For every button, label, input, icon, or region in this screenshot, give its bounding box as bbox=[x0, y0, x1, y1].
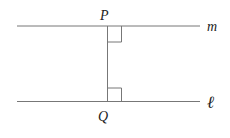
diagram-canvas: P Q m ℓ bbox=[0, 0, 230, 138]
right-angle-mark-q bbox=[108, 88, 122, 102]
label-l: ℓ bbox=[207, 93, 214, 112]
label-p: P bbox=[99, 8, 109, 23]
label-m: m bbox=[207, 19, 217, 34]
label-q: Q bbox=[98, 109, 108, 124]
right-angle-mark-p bbox=[108, 26, 122, 42]
